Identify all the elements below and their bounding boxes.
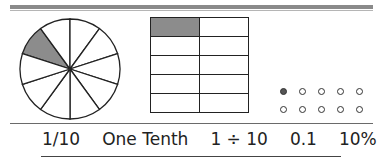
label-percent: 10%: [339, 129, 377, 149]
grid-cell: [200, 18, 249, 37]
dot: [280, 88, 287, 95]
labels-underline: [41, 156, 341, 157]
grid-cell: [200, 94, 249, 113]
grid-cell: [151, 75, 200, 94]
grid-cell: [200, 75, 249, 94]
label-decimal: 0.1: [290, 129, 317, 149]
label-fraction: 1/10: [42, 129, 80, 149]
representation-labels: 1/10 One Tenth 1 ÷ 10 0.1 10%: [42, 129, 377, 149]
grid-cell: [200, 37, 249, 56]
dot-array-tenths: [280, 88, 375, 113]
grid-cell: [151, 94, 200, 113]
grid-cell: [151, 37, 200, 56]
label-division: 1 ÷ 10: [210, 129, 268, 149]
grid-cell: [151, 56, 200, 75]
dot: [356, 88, 363, 95]
grid-tenths: [150, 17, 249, 113]
dot: [280, 106, 287, 113]
grid-cell: [200, 56, 249, 75]
dot: [299, 88, 306, 95]
dot: [318, 106, 325, 113]
top-rule-thin: [10, 10, 373, 11]
grid-cell: [151, 18, 200, 37]
label-words: One Tenth: [102, 129, 188, 149]
dot: [337, 106, 344, 113]
dot: [299, 106, 306, 113]
pie-chart-tenths: [18, 17, 122, 121]
dot: [318, 88, 325, 95]
divider-rule: [10, 123, 373, 124]
dot: [356, 106, 363, 113]
dot: [337, 88, 344, 95]
top-rule: [10, 5, 373, 9]
